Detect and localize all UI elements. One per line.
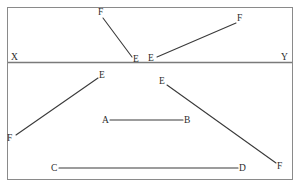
label-F-upper-left: F: [98, 7, 103, 17]
label-X: X: [11, 52, 18, 62]
label-A: A: [102, 115, 109, 125]
label-Y: Y: [281, 52, 288, 62]
label-B: B: [184, 115, 190, 125]
label-E-lower-right: E: [159, 76, 165, 86]
label-E-lower-left: E: [99, 70, 105, 80]
label-F-lower-right: F: [277, 161, 282, 171]
figure-canvas: F E E F X Y E F E F A B C D: [0, 0, 300, 194]
geometry-figure: F E E F X Y E F E F A B C D: [0, 0, 300, 194]
label-F-lower-left: F: [7, 133, 12, 143]
caption-strip: [0, 184, 300, 194]
label-E-upper-right: E: [148, 53, 154, 63]
label-D: D: [239, 163, 246, 173]
label-C: C: [51, 163, 57, 173]
figure-frame: [8, 8, 293, 180]
label-E-upper-left: E: [133, 54, 139, 64]
label-F-upper-right: F: [237, 13, 242, 23]
